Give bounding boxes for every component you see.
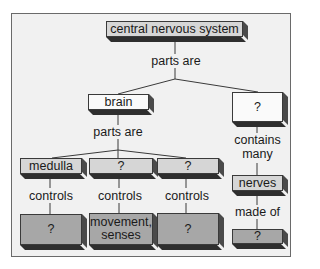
label-line-1: contains <box>234 133 281 147</box>
node-label-line-2: senses <box>101 228 141 242</box>
controls-label-1: controls <box>27 189 75 203</box>
node-label: ? <box>118 160 125 173</box>
part-3-controls-node: ? <box>157 213 219 245</box>
central-nervous-system-node: central nervous system <box>106 21 243 37</box>
node-label: medulla <box>29 160 73 173</box>
node-label: ? <box>254 230 261 243</box>
node-label: ? <box>185 160 192 173</box>
node-label-line-1: movement, <box>90 215 152 229</box>
nerves-made-of-node: ? <box>232 229 283 244</box>
node-label: ? <box>185 223 192 236</box>
node-label: ? <box>254 101 261 114</box>
medulla-node: medulla <box>20 158 82 174</box>
controls-label-3: controls <box>163 189 211 203</box>
contains-many-label: contains many <box>232 133 283 161</box>
unknown-part-node: ? <box>232 92 283 122</box>
node-label: ? <box>48 223 55 236</box>
node-label: brain <box>105 96 133 109</box>
made-of-label: made of <box>232 205 283 219</box>
brain-node: brain <box>88 94 149 110</box>
medulla-controls-node: ? <box>20 214 82 245</box>
controls-label-2: controls <box>96 189 144 203</box>
node-label: central nervous system <box>110 23 239 36</box>
movement-senses-node: movement, senses <box>89 213 153 245</box>
nerves-node: nerves <box>232 175 283 191</box>
node-label: movement, senses <box>90 216 152 242</box>
root-link-label: parts are <box>148 54 204 68</box>
unknown-brain-part-2-node: ? <box>89 158 153 174</box>
label-line-2: many <box>242 147 273 161</box>
node-label: nerves <box>239 177 277 190</box>
unknown-brain-part-3-node: ? <box>157 158 219 174</box>
brain-link-label: parts are <box>90 125 146 139</box>
